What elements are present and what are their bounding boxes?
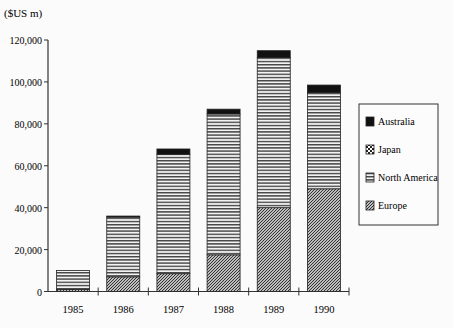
segment-north-america <box>207 114 240 255</box>
legend-swatch-north-america <box>366 173 374 182</box>
y-tick-label: 100,000 <box>10 77 43 88</box>
y-tick-label: 0 <box>37 287 42 298</box>
legend-label: Australia <box>378 116 415 127</box>
segment-europe <box>207 255 240 292</box>
x-tick-label: 1986 <box>113 304 134 315</box>
y-tick-label: 80,000 <box>15 119 43 130</box>
segment-australia <box>307 85 340 93</box>
x-tick-label: 1985 <box>63 304 84 315</box>
legend-label: Europe <box>378 200 407 211</box>
bar-1989: 1989 <box>257 51 290 315</box>
segment-australia <box>257 51 290 58</box>
x-tick-label: 1988 <box>213 304 234 315</box>
x-tick-label: 1990 <box>313 304 334 315</box>
segment-europe <box>157 274 190 292</box>
segment-europe <box>307 189 340 292</box>
segment-europe <box>257 208 290 292</box>
legend: AustraliaJapanNorth AmericaEurope <box>359 104 438 225</box>
legend-label: Japan <box>378 144 401 155</box>
y-tick-label: 60,000 <box>15 161 43 172</box>
bar-1988: 1988 <box>207 109 240 314</box>
legend-swatch-japan <box>366 145 374 154</box>
segment-north-america <box>57 271 90 290</box>
segment-north-america <box>157 154 190 273</box>
legend-swatch-europe <box>366 201 374 210</box>
segment-north-america <box>307 93 340 189</box>
x-tick-label: 1987 <box>163 304 184 315</box>
bars: 198519861987198819891990 <box>57 51 341 315</box>
x-tick-label: 1989 <box>263 304 284 315</box>
stacked-bar-chart: ($US m) 020,00040,00060,00080,000100,000… <box>0 0 453 328</box>
bar-1987: 1987 <box>157 149 190 315</box>
y-tick-label: 120,000 <box>10 35 43 46</box>
y-tick-label: 40,000 <box>15 203 43 214</box>
segment-europe <box>107 277 140 292</box>
segment-north-america <box>257 57 290 207</box>
bar-1986: 1986 <box>107 216 140 314</box>
y-axis-label: ($US m) <box>4 7 43 20</box>
legend-swatch-australia <box>366 117 374 126</box>
legend-label: North America <box>378 172 438 183</box>
y-tick-label: 20,000 <box>15 245 43 256</box>
segment-australia <box>157 149 190 154</box>
bar-1985: 1985 <box>57 271 90 315</box>
segment-north-america <box>107 217 140 277</box>
bar-1990: 1990 <box>307 85 340 314</box>
segment-australia <box>107 216 140 217</box>
segment-australia <box>207 109 240 114</box>
